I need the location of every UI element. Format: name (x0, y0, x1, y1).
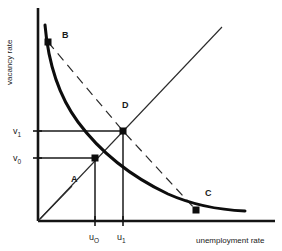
x-axis-title: unemployment rate (196, 236, 265, 245)
y-axis-title: vacancy rate (5, 39, 14, 85)
marker-point-d (120, 128, 127, 135)
x-tick-labels: uO u1 (89, 232, 126, 244)
marker-point-a (92, 155, 99, 162)
y-tick-label-v0: v0 (13, 153, 22, 165)
point-label-b: B (62, 30, 69, 40)
y-tick-label-v1: v1 (13, 126, 22, 138)
x-tick-label-u0: uO (89, 232, 99, 244)
origin-short-ray (40, 186, 72, 219)
point-label-c: C (205, 188, 212, 198)
dashed-shift-ray (48, 42, 196, 210)
marker-point-c (193, 207, 200, 214)
diagram-canvas: B A D C v1 v0 uO u1 unemployment rate va… (0, 0, 282, 251)
y-tick-labels: v1 v0 (13, 126, 22, 165)
beveridge-curve-diagram: B A D C v1 v0 uO u1 unemployment rate va… (0, 0, 282, 251)
x-tick-label-u1: u1 (117, 232, 126, 244)
point-label-a: A (71, 174, 78, 184)
point-label-d: D (122, 100, 129, 110)
marker-point-b (45, 39, 52, 46)
